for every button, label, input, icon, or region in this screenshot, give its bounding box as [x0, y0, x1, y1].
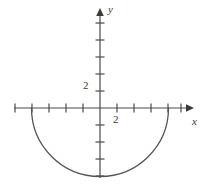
x-axis-label: x: [192, 116, 197, 127]
y-axis-arrowhead: [96, 8, 104, 16]
coordinate-plane: [0, 0, 210, 185]
graph-figure: y x 2 2: [0, 0, 210, 185]
y-axis-label: y: [108, 4, 113, 15]
x-axis-tick-label-2: 2: [113, 114, 119, 125]
x-axis-arrowhead: [186, 104, 194, 112]
y-axis-tick-label-2: 2: [83, 80, 89, 91]
y-axis-group: [96, 8, 105, 178]
x-axis-group: [14, 104, 194, 113]
